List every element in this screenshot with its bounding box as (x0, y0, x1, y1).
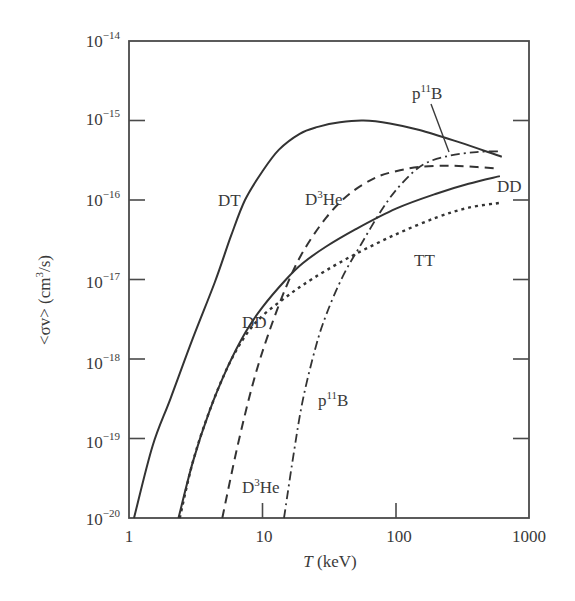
x-tick-label: 1 (125, 527, 134, 546)
curve-d3he (222, 166, 495, 518)
y-tick-labels: 10−14 10−15 10−16 10−17 10−18 10−19 10−2… (86, 29, 121, 529)
y-tick-label: 10−18 (86, 351, 121, 373)
label-d3he-lower: D3He (242, 476, 280, 497)
y-tick-label: 10−16 (86, 188, 121, 210)
x-tick-label: 10 (256, 527, 273, 546)
y-tick-label: 10−17 (86, 270, 121, 292)
curve-dd (179, 176, 500, 518)
y-tick-label: 10−19 (86, 430, 121, 452)
y-axis-title: <σv> (cm3/s) (33, 255, 54, 345)
y-tick-label: 10−20 (86, 507, 121, 529)
x-tick-labels: 1 10 100 1000 (125, 527, 546, 546)
y-tick-label: 10−14 (86, 29, 121, 51)
curve-dt (134, 120, 502, 518)
axis-ticks (129, 121, 529, 519)
x-tick-label: 1000 (512, 527, 546, 546)
curves (134, 120, 502, 518)
label-p11b-upper: p11B (412, 82, 442, 103)
x-axis-title: T (keV) (303, 552, 356, 571)
label-p11b-lower: p11B (318, 389, 348, 410)
x-tick-label: 100 (386, 527, 412, 546)
curve-tt (180, 203, 500, 518)
label-dd-upper: DD (497, 177, 522, 196)
label-dd-lower: DD (242, 313, 267, 332)
label-d3he-upper: D3He (305, 188, 343, 209)
plot-frame (129, 41, 529, 518)
y-tick-label: 10−15 (86, 107, 121, 129)
fusion-reactivity-chart: 10−14 10−15 10−16 10−17 10−18 10−19 10−2… (0, 0, 575, 601)
p11b-leader-line (431, 104, 449, 152)
label-dt: DT (218, 191, 241, 210)
label-tt: TT (414, 251, 435, 270)
